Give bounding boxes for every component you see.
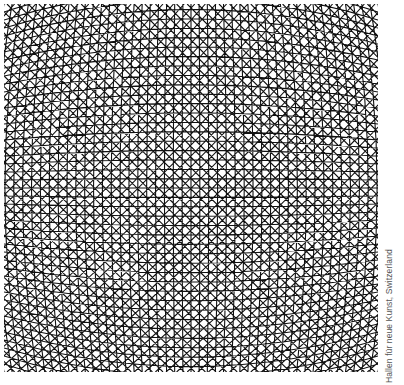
lattice-lines xyxy=(4,4,378,372)
op-art-lattice-artwork xyxy=(4,4,378,372)
image-credit-caption: Hallen für neue Kunst, Switzerland xyxy=(384,249,394,383)
